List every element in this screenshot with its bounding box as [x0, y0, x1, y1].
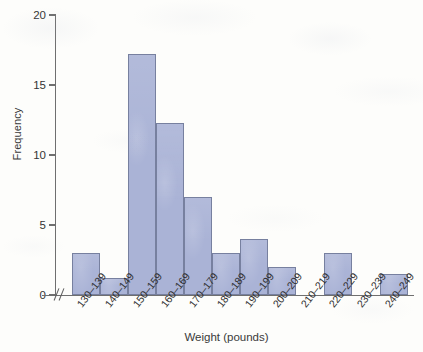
- y-axis-tick: [49, 154, 56, 155]
- histogram-bar-slot: [240, 15, 268, 295]
- x-axis-title: Weight (pounds): [0, 331, 423, 343]
- histogram-bar-slot: [100, 15, 128, 295]
- y-axis-title: Frequency: [11, 89, 23, 179]
- y-axis-tick: [49, 84, 56, 85]
- y-axis-tick-label: 15: [0, 79, 46, 91]
- histogram-bar-slot: [324, 15, 352, 295]
- y-axis-tick-label: 20: [0, 9, 46, 21]
- histogram-bar-slot: [268, 15, 296, 295]
- y-axis-tick-label: 5: [0, 219, 46, 231]
- histogram-bar-slot: [296, 15, 324, 295]
- y-axis-tick: [49, 224, 56, 225]
- histogram-bar: [156, 123, 184, 295]
- histogram-bar: [128, 54, 156, 295]
- axis-break-icon: [53, 286, 69, 304]
- histogram-bar-slot: [212, 15, 240, 295]
- histogram-bar-slot: [380, 15, 408, 295]
- histogram-bar-slot: [352, 15, 380, 295]
- histogram-bar-slot: [184, 15, 212, 295]
- histogram-bar-slot: [128, 15, 156, 295]
- y-axis-tick-label: 0: [0, 289, 46, 301]
- plot-area: [72, 15, 408, 295]
- histogram-chart: Frequency 05101520 130–139140–149150–159…: [0, 0, 423, 352]
- y-axis-tick-label: 10: [0, 149, 46, 161]
- histogram-bar-slot: [156, 15, 184, 295]
- y-axis-tick: [49, 14, 56, 15]
- histogram-bar-slot: [72, 15, 100, 295]
